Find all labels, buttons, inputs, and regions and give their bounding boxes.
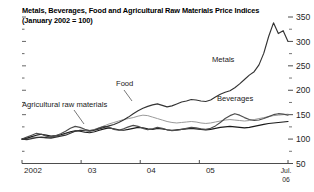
y-tick-label: 50 xyxy=(296,159,306,169)
annotation-beverages: Beverages xyxy=(217,94,254,103)
y-tick-label: 250 xyxy=(296,61,311,71)
chart-canvas: Metals, Beverages, Food and Agricultural… xyxy=(0,0,314,192)
annotation-food: Food xyxy=(116,79,133,88)
y-tick-label: 150 xyxy=(296,110,311,120)
x-tick-label: 05 xyxy=(206,166,215,175)
x-tick-label: 2002 xyxy=(24,166,42,175)
y-tick-label: 100 xyxy=(296,134,311,144)
x-tick-label: 04 xyxy=(147,166,156,175)
y-tick-label: 200 xyxy=(296,85,311,95)
annotation-metals: Metals xyxy=(212,55,235,64)
price-indices-chart: Metals, Beverages, Food and Agricultural… xyxy=(0,0,314,192)
chart-subtitle: (January 2002 = 100) xyxy=(22,16,93,25)
chart-title: Metals, Beverages, Food and Agricultural… xyxy=(22,6,259,15)
x-tick-label: Jul. xyxy=(281,167,292,174)
x-tick-label: 06 xyxy=(282,176,290,183)
y-tick-label: 350 xyxy=(296,12,311,22)
x-tick-label: 03 xyxy=(88,166,97,175)
y-tick-label: 300 xyxy=(296,37,311,47)
annotation-agricultural-raw-materials: Agricultural raw materials xyxy=(22,100,107,109)
